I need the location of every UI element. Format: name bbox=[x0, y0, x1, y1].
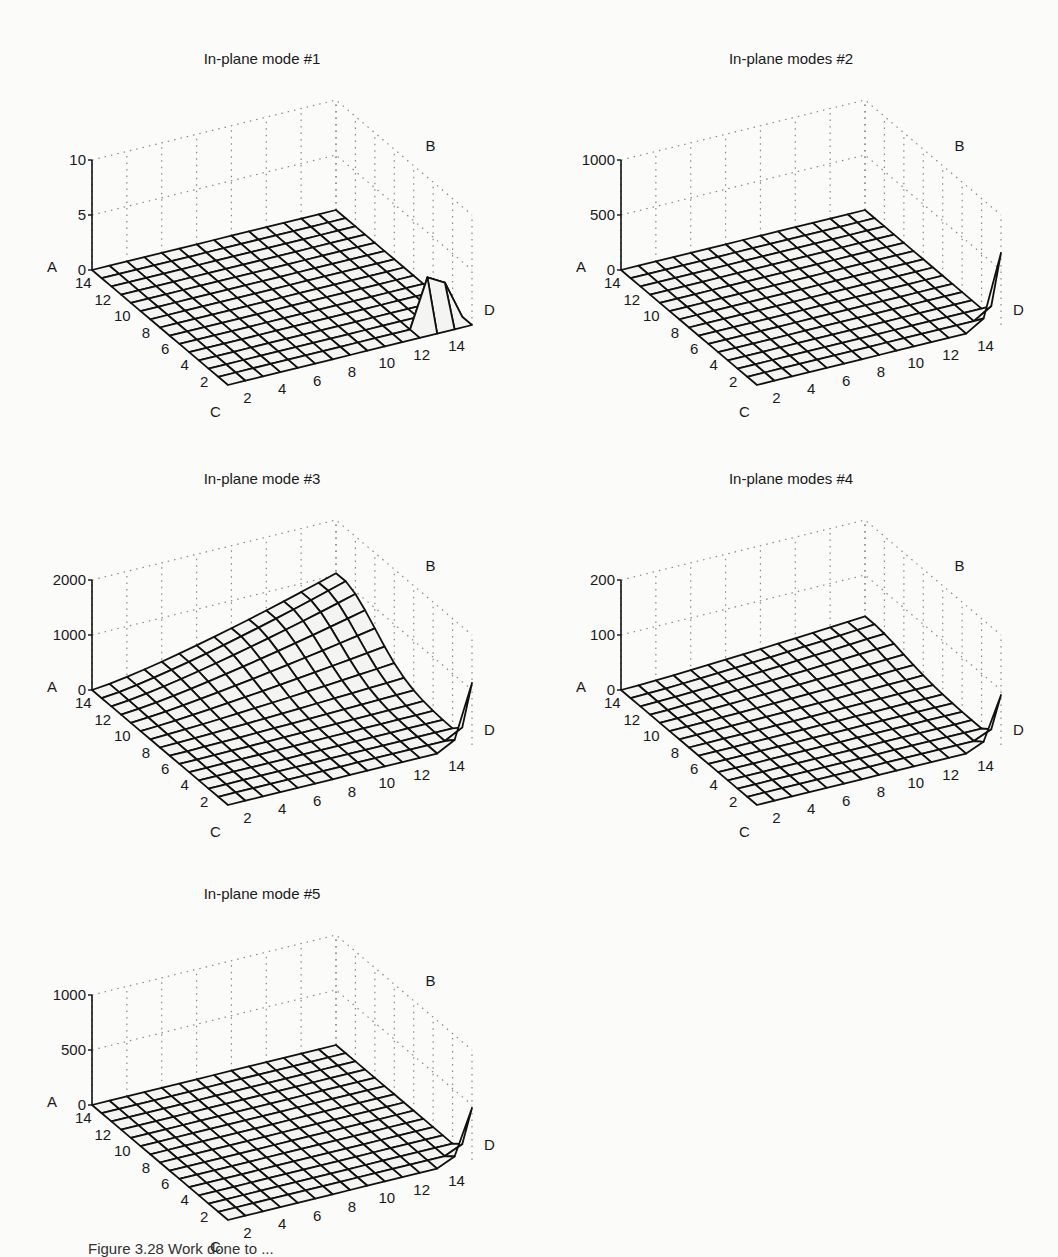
y-tick-label: 6 bbox=[690, 340, 698, 357]
x-tick-label: 8 bbox=[877, 783, 885, 800]
corner-label-d: D bbox=[484, 721, 495, 738]
y-tick-label: 6 bbox=[161, 1175, 169, 1192]
z-tick-label: 5 bbox=[78, 206, 86, 223]
x-tick-label: 2 bbox=[772, 809, 780, 826]
x-tick-label: 6 bbox=[313, 792, 321, 809]
y-tick-label: 2 bbox=[729, 793, 737, 810]
y-tick-label: 10 bbox=[114, 727, 131, 744]
y-tick-label: 6 bbox=[690, 760, 698, 777]
surface-plot: 010020022446688101012121414ABCD bbox=[529, 420, 1058, 830]
x-tick-label: 14 bbox=[977, 337, 994, 354]
x-tick-label: 4 bbox=[278, 1215, 286, 1232]
x-tick-label: 6 bbox=[313, 1207, 321, 1224]
y-tick-label: 6 bbox=[161, 760, 169, 777]
y-tick-label: 2 bbox=[200, 1208, 208, 1225]
corner-label-c: C bbox=[739, 823, 750, 840]
x-tick-label: 4 bbox=[807, 380, 815, 397]
x-tick-label: 4 bbox=[278, 800, 286, 817]
corner-label-d: D bbox=[484, 1136, 495, 1153]
corner-label-b: B bbox=[425, 972, 435, 989]
x-tick-label: 10 bbox=[908, 774, 925, 791]
x-tick-label: 12 bbox=[413, 766, 430, 783]
y-tick-label: 8 bbox=[142, 1159, 150, 1176]
y-tick-label: 10 bbox=[114, 1142, 131, 1159]
x-tick-label: 14 bbox=[448, 1172, 465, 1189]
y-tick-label: 2 bbox=[200, 793, 208, 810]
y-tick-label: 10 bbox=[643, 307, 660, 324]
surface-plot: 0500100022446688101012121414ABCD bbox=[0, 835, 529, 1245]
corner-label-a: A bbox=[47, 1093, 57, 1110]
y-tick-label: 14 bbox=[75, 1109, 92, 1126]
x-tick-label: 8 bbox=[348, 1198, 356, 1215]
y-tick-label: 6 bbox=[161, 340, 169, 357]
z-tick-label: 1000 bbox=[582, 151, 615, 168]
corner-label-b: B bbox=[954, 137, 964, 154]
x-tick-label: 12 bbox=[413, 1181, 430, 1198]
y-tick-label: 14 bbox=[75, 274, 92, 291]
y-tick-label: 8 bbox=[142, 324, 150, 341]
corner-label-d: D bbox=[1013, 301, 1024, 318]
x-tick-label: 6 bbox=[842, 372, 850, 389]
surface-plot: 01000200022446688101012121414ABCD bbox=[0, 420, 529, 830]
x-tick-label: 2 bbox=[243, 809, 251, 826]
corner-label-c: C bbox=[210, 403, 221, 420]
z-tick-label: 1000 bbox=[53, 626, 86, 643]
x-tick-label: 4 bbox=[278, 380, 286, 397]
y-tick-label: 8 bbox=[671, 324, 679, 341]
y-tick-label: 4 bbox=[710, 356, 718, 373]
x-tick-label: 6 bbox=[842, 792, 850, 809]
x-tick-label: 14 bbox=[977, 757, 994, 774]
y-tick-label: 12 bbox=[94, 1126, 111, 1143]
y-tick-label: 12 bbox=[94, 711, 111, 728]
x-tick-label: 12 bbox=[413, 346, 430, 363]
x-tick-label: 10 bbox=[908, 354, 925, 371]
x-tick-label: 4 bbox=[807, 800, 815, 817]
y-tick-label: 4 bbox=[710, 776, 718, 793]
z-tick-label: 100 bbox=[590, 626, 615, 643]
y-tick-label: 12 bbox=[623, 711, 640, 728]
y-tick-label: 12 bbox=[623, 291, 640, 308]
corner-label-a: A bbox=[47, 678, 57, 695]
x-tick-label: 12 bbox=[942, 346, 959, 363]
corner-label-c: C bbox=[739, 403, 750, 420]
x-tick-label: 2 bbox=[243, 389, 251, 406]
z-tick-label: 10 bbox=[69, 151, 86, 168]
panel-mode-4: In-plane modes #401002002244668810101212… bbox=[529, 420, 1058, 830]
y-tick-label: 4 bbox=[181, 1191, 189, 1208]
y-tick-label: 2 bbox=[200, 373, 208, 390]
z-tick-label: 200 bbox=[590, 571, 615, 588]
panel-mode-5: In-plane mode #5050010002244668810101212… bbox=[0, 835, 529, 1245]
x-tick-label: 14 bbox=[448, 337, 465, 354]
surface-plot: 051022446688101012121414ABCD bbox=[0, 0, 529, 410]
surface-plot: 0500100022446688101012121414ABCD bbox=[529, 0, 1058, 410]
panel-mode-2: In-plane modes #205001000224466881010121… bbox=[529, 0, 1058, 410]
y-tick-label: 14 bbox=[604, 274, 621, 291]
y-tick-label: 4 bbox=[181, 356, 189, 373]
y-tick-label: 10 bbox=[643, 727, 660, 744]
x-tick-label: 8 bbox=[877, 363, 885, 380]
x-tick-label: 12 bbox=[942, 766, 959, 783]
z-tick-label: 500 bbox=[590, 206, 615, 223]
x-tick-label: 10 bbox=[379, 354, 396, 371]
z-tick-label: 2000 bbox=[53, 571, 86, 588]
y-tick-label: 2 bbox=[729, 373, 737, 390]
corner-label-b: B bbox=[425, 557, 435, 574]
y-tick-label: 14 bbox=[604, 694, 621, 711]
y-tick-label: 14 bbox=[75, 694, 92, 711]
figure-caption: Figure 3.28 Work done to ... bbox=[88, 1240, 274, 1257]
x-tick-label: 2 bbox=[772, 389, 780, 406]
corner-label-a: A bbox=[576, 258, 586, 275]
x-tick-label: 2 bbox=[243, 1224, 251, 1241]
y-tick-label: 8 bbox=[142, 744, 150, 761]
y-tick-label: 8 bbox=[671, 744, 679, 761]
corner-label-b: B bbox=[954, 557, 964, 574]
corner-label-b: B bbox=[425, 137, 435, 154]
x-tick-label: 6 bbox=[313, 372, 321, 389]
y-tick-label: 10 bbox=[114, 307, 131, 324]
z-tick-label: 1000 bbox=[53, 986, 86, 1003]
x-tick-label: 8 bbox=[348, 783, 356, 800]
y-tick-label: 12 bbox=[94, 291, 111, 308]
corner-label-a: A bbox=[47, 258, 57, 275]
z-tick-label: 500 bbox=[61, 1041, 86, 1058]
x-tick-label: 14 bbox=[448, 757, 465, 774]
